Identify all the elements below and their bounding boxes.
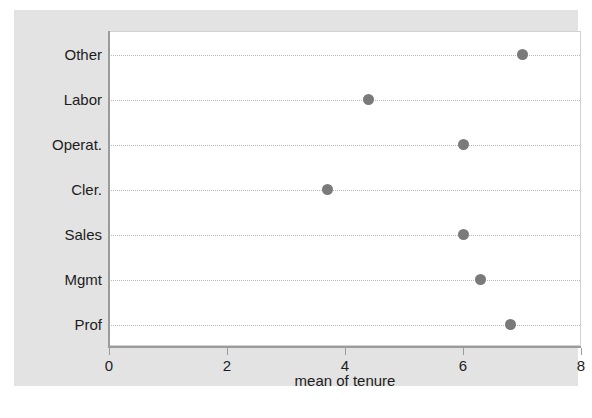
data-point-marker <box>458 229 469 240</box>
x-axis-tick-mark <box>345 348 346 355</box>
data-point-marker <box>475 274 486 285</box>
y-axis-line <box>108 31 110 347</box>
gridline <box>109 280 580 281</box>
y-axis-tick-label: Mgmt <box>18 270 102 287</box>
plot-region <box>109 31 581 346</box>
y-axis-tick-label: Prof <box>18 315 102 332</box>
plot-inner <box>109 32 580 345</box>
data-point-marker <box>458 139 469 150</box>
data-point-marker <box>517 49 528 60</box>
chart-screenshot: OtherLaborOperat.Cler.SalesMgmtProf 0246… <box>0 0 592 418</box>
y-axis-tick-label: Labor <box>18 90 102 107</box>
graph-region: OtherLaborOperat.Cler.SalesMgmtProf 0246… <box>14 10 578 386</box>
y-axis-tick-label: Cler. <box>18 180 102 197</box>
x-axis-tick-mark <box>227 348 228 355</box>
x-axis-tick-mark <box>581 348 582 355</box>
gridline <box>109 145 580 146</box>
data-point-marker <box>505 319 516 330</box>
data-point-marker <box>363 94 374 105</box>
gridline <box>109 55 580 56</box>
gridline <box>109 235 580 236</box>
data-point-marker <box>322 184 333 195</box>
y-axis-tick-label: Other <box>18 45 102 62</box>
gridline <box>109 190 580 191</box>
x-axis-tick-mark <box>463 348 464 355</box>
y-axis-tick-labels: OtherLaborOperat.Cler.SalesMgmtProf <box>14 31 102 346</box>
gridline <box>109 100 580 101</box>
y-axis-tick-label: Sales <box>18 225 102 242</box>
x-axis-tick-mark <box>109 348 110 355</box>
y-axis-tick-label: Operat. <box>18 135 102 152</box>
x-axis-title: mean of tenure <box>109 372 581 389</box>
